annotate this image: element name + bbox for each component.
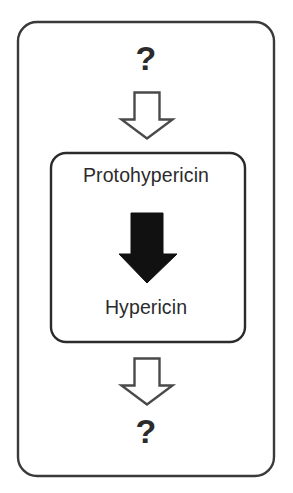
- pathway-diagram: ? Protohypericin Hypericin ?: [0, 0, 293, 493]
- top-unknown-label: ?: [136, 39, 157, 77]
- diagram-canvas: ? Protohypericin Hypericin ?: [0, 0, 293, 493]
- bottom-unknown-label: ?: [136, 412, 157, 450]
- product-label: Hypericin: [105, 296, 187, 318]
- precursor-label: Protohypericin: [83, 164, 209, 186]
